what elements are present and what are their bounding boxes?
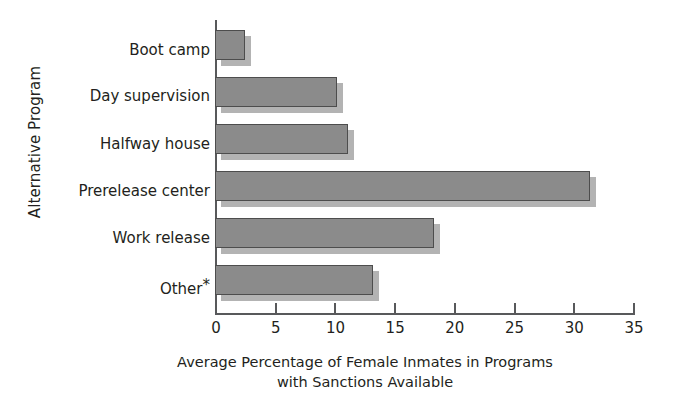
x-ticklabel-5: 5 (256, 319, 296, 337)
x-ticklabel-15: 15 (375, 319, 415, 337)
category-label-day-supervision: Day supervision (58, 88, 210, 104)
x-ticklabel-35: 35 (614, 319, 654, 337)
x-axis-line (215, 313, 633, 315)
category-label-other: Other* (58, 277, 210, 297)
bar-fill (215, 265, 373, 295)
bar-boot-camp (215, 30, 251, 60)
category-label-list: Boot camp Day supervision Halfway house … (58, 20, 210, 313)
bar-prerelease-center (215, 171, 596, 201)
x-axis-title-line-2: with Sanctions Available (120, 372, 610, 392)
x-ticklabel-25: 25 (495, 319, 535, 337)
bar-fill (215, 30, 245, 60)
x-ticklabel-10: 10 (315, 319, 355, 337)
x-tick-10 (334, 303, 336, 315)
bar-other (215, 265, 379, 295)
x-axis-title-line-1: Average Percentage of Female Inmates in … (177, 354, 553, 370)
bar-fill (215, 77, 337, 107)
x-tick-20 (454, 303, 456, 315)
bar-fill (215, 124, 348, 154)
x-ticklabel-0: 0 (196, 319, 236, 337)
x-tick-0 (215, 303, 217, 315)
category-label-prerelease-center: Prerelease center (58, 183, 210, 199)
category-label-work-release: Work release (58, 230, 210, 246)
bar-day-supervision (215, 77, 343, 107)
bar-halfway-house (215, 124, 354, 154)
x-tick-15 (394, 303, 396, 315)
bar-fill (215, 218, 434, 248)
y-axis-title: Alternative Program (22, 0, 48, 292)
x-tick-35 (633, 303, 635, 315)
category-label-boot-camp: Boot camp (58, 42, 210, 58)
bar-fill (215, 171, 590, 201)
plot-area: 0 5 10 15 20 25 30 35 (215, 20, 640, 313)
x-tick-5 (275, 303, 277, 315)
x-tick-30 (573, 303, 575, 315)
bar-chart: Alternative Program Boot camp Day superv… (0, 0, 675, 416)
bar-work-release (215, 218, 440, 248)
x-axis-title: Average Percentage of Female Inmates in … (120, 352, 610, 392)
x-ticklabel-20: 20 (435, 319, 475, 337)
footnote-asterisk: * (203, 276, 211, 294)
x-ticklabel-30: 30 (554, 319, 594, 337)
x-tick-25 (514, 303, 516, 315)
category-label-halfway-house: Halfway house (58, 136, 210, 152)
category-label-other-text: Other (160, 280, 203, 298)
